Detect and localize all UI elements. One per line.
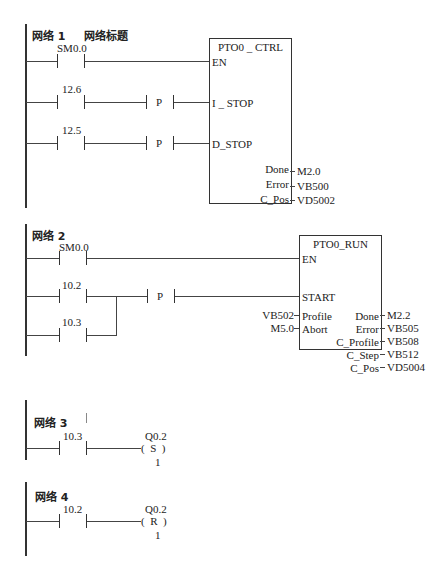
wire	[290, 171, 295, 172]
wire	[26, 335, 59, 336]
contact-label: 12.6	[62, 83, 81, 95]
wire	[294, 328, 299, 329]
contact-label: 10.2	[62, 279, 81, 291]
coil-count: 1	[155, 529, 161, 541]
pin-abort: Abort	[302, 323, 328, 335]
wire	[87, 258, 299, 259]
wire	[380, 315, 385, 316]
wire	[26, 258, 59, 259]
contact-10-3[interactable]	[59, 328, 60, 342]
contact-10-2[interactable]	[59, 514, 60, 528]
wire	[85, 61, 209, 62]
output-cpos-value: VD5002	[297, 194, 335, 206]
wire	[26, 448, 59, 449]
wire	[87, 296, 147, 297]
power-rail	[25, 24, 27, 208]
p-edge-label: P	[157, 290, 163, 302]
function-block-pto0-run[interactable]: PTO0_RUN EN START Profile Abort Done Err…	[299, 235, 382, 350]
pin-en: EN	[212, 56, 227, 68]
contact-label: SM0.0	[57, 42, 87, 54]
contact-12-6[interactable]	[57, 95, 58, 109]
coil-count: 1	[155, 456, 161, 468]
pin-error: Error	[266, 178, 289, 190]
contact-label: 10.2	[63, 503, 82, 515]
wire	[380, 341, 385, 342]
pin-done: Done	[265, 163, 289, 175]
contact-label: SM0.0	[59, 241, 89, 253]
coil-type: R	[150, 515, 157, 527]
pin-c-pos: C_Pos	[350, 362, 379, 374]
wire	[87, 448, 141, 449]
pin-start: START	[302, 291, 335, 303]
power-rail	[25, 224, 27, 356]
network-title: 网络 4	[35, 488, 68, 504]
output-cprofile-value: VB508	[387, 335, 419, 347]
wire	[380, 367, 385, 368]
output-error-value: VB505	[387, 322, 419, 334]
power-rail	[25, 400, 27, 460]
wire	[26, 143, 57, 144]
contact-12-5[interactable]	[57, 136, 58, 150]
output-cstep-value: VB512	[387, 348, 419, 360]
wire	[174, 143, 209, 144]
coil-type: S	[150, 442, 156, 454]
contact-label: 10.3	[62, 316, 81, 328]
reset-coil[interactable]: ( R )	[141, 515, 167, 527]
wire	[85, 143, 146, 144]
wire	[87, 521, 141, 522]
input-profile-value: VB502	[262, 309, 294, 321]
pin-d-stop: D_STOP	[212, 138, 252, 150]
output-error-value: VB500	[297, 180, 329, 192]
function-block-pto0-ctrl[interactable]: PTO0 _ CTRL EN I _ STOP D_STOP Done Erro…	[209, 38, 292, 204]
coil-label: Q0.2	[145, 503, 167, 515]
block-title: PTO0_RUN	[300, 238, 381, 250]
wire	[175, 296, 299, 297]
pin-c-profile: C_Profile	[336, 336, 379, 348]
marker	[86, 413, 87, 423]
contact-10-3[interactable]	[59, 441, 60, 455]
contact-label: 10.3	[63, 430, 82, 442]
network-title: 网络 3	[34, 414, 67, 430]
p-edge-label: P	[156, 137, 162, 149]
output-cpos-value: VD5004	[387, 361, 425, 373]
power-rail	[25, 482, 27, 556]
p-edge-label: P	[156, 96, 162, 108]
wire	[174, 102, 209, 103]
network-comment: 网络标题	[84, 27, 128, 43]
pin-c-step: C_Step	[347, 349, 379, 361]
output-done-value: M2.2	[387, 309, 411, 321]
contact-label: 12.5	[62, 124, 81, 136]
network-title: 网络 1	[32, 27, 65, 43]
wire	[380, 354, 385, 355]
pin-i-stop: I _ STOP	[212, 97, 253, 109]
wire	[380, 328, 385, 329]
coil-label: Q0.2	[145, 430, 167, 442]
pin-profile: Profile	[302, 310, 332, 322]
pin-error: Error	[356, 323, 379, 335]
block-title: PTO0 _ CTRL	[210, 41, 291, 53]
wire	[85, 102, 146, 103]
wire	[26, 296, 59, 297]
pin-c-pos: C_Pos	[260, 193, 289, 205]
wire	[290, 186, 295, 187]
pin-en: EN	[302, 253, 317, 265]
set-coil[interactable]: ( S )	[141, 442, 165, 454]
wire	[87, 335, 116, 336]
contact-10-2[interactable]	[59, 289, 60, 303]
p-edge-contact[interactable]	[147, 289, 148, 303]
contact-sm0-0[interactable]	[57, 54, 58, 68]
pin-done: Done	[355, 310, 379, 322]
branch-wire	[116, 296, 117, 336]
p-edge-contact[interactable]	[146, 136, 147, 150]
p-edge-contact[interactable]	[146, 95, 147, 109]
wire	[26, 521, 59, 522]
wire	[294, 315, 299, 316]
contact-sm0-0[interactable]	[59, 251, 60, 265]
wire	[26, 61, 57, 62]
wire	[26, 102, 57, 103]
input-abort-value: M5.0	[270, 322, 294, 334]
output-done-value: M2.0	[297, 165, 321, 177]
wire	[290, 200, 295, 201]
